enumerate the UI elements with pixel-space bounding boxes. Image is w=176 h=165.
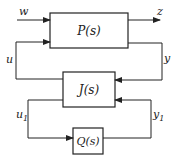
block-p-label: P(s) xyxy=(76,24,101,38)
block-p: P(s) xyxy=(50,13,128,48)
block-q-label: Q(s) xyxy=(76,135,99,148)
signal-u1-path xyxy=(28,100,73,138)
signal-u-label: u xyxy=(6,53,13,66)
block-j: J(s) xyxy=(63,72,115,107)
signal-u1-label: u1 xyxy=(16,108,28,123)
signal-y-label: y xyxy=(163,52,171,65)
block-diagram: P(s) J(s) Q(s) w z y u u1 y1 xyxy=(0,0,176,165)
signal-y1-label: y1 xyxy=(152,108,164,123)
signal-y1-path xyxy=(103,100,151,138)
block-q: Q(s) xyxy=(73,128,103,154)
signal-w-label: w xyxy=(19,5,29,18)
block-j-label: J(s) xyxy=(76,83,100,97)
signal-z-label: z xyxy=(156,5,163,18)
